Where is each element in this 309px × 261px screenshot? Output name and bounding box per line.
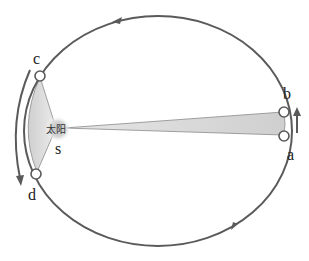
arrow-up-icon [293,107,301,116]
sector-a-b [64,112,285,135]
arrow-down-icon [16,175,24,186]
planet-position-a [279,131,289,141]
planet-position-d [31,169,41,179]
sun-label: 太阳 [46,123,66,135]
label-c: c [33,50,40,67]
label-a: a [287,146,294,163]
label-b: b [283,85,291,102]
kepler-orbit-diagram: 太阳 s c d b a [0,0,309,261]
planet-position-b [279,107,289,117]
planet-position-c [35,71,45,81]
sun-point-label: s [55,140,61,157]
label-d: d [28,186,36,203]
